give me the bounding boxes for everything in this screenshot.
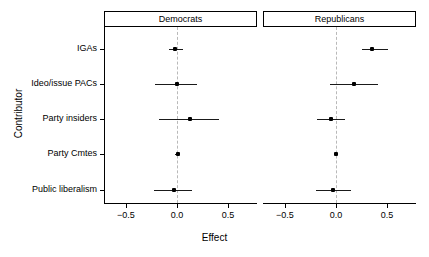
data-point <box>331 188 335 192</box>
x-axis-tick <box>336 204 337 208</box>
y-axis-tick <box>100 190 104 191</box>
data-point <box>334 152 338 156</box>
y-axis-tick <box>100 49 104 50</box>
y-axis-tick <box>100 84 104 85</box>
data-point <box>188 117 192 121</box>
x-axis-tick <box>177 204 178 208</box>
x-axis-tick-label: 0.5 <box>367 210 407 220</box>
y-axis-tick <box>100 119 104 120</box>
y-axis-title: Contributor <box>13 74 24 154</box>
data-point <box>176 152 180 156</box>
y-axis-tick-label: Party Cmtes <box>47 148 97 158</box>
x-axis-tick-label: 0.0 <box>316 210 356 220</box>
x-axis-tick-label: −0.5 <box>106 210 146 220</box>
chart-figure: Contributor Effect Democrats Republicans… <box>0 0 429 257</box>
y-axis-tick <box>100 154 104 155</box>
x-axis-tick-label: 0.5 <box>208 210 248 220</box>
x-axis-tick <box>228 204 229 208</box>
panel-strip-democrats: Democrats <box>104 11 257 27</box>
x-axis-title: Effect <box>0 232 429 243</box>
data-point <box>352 82 356 86</box>
y-axis-line <box>104 27 105 203</box>
data-point <box>329 117 333 121</box>
zero-reference-line <box>177 27 179 203</box>
x-axis-tick <box>387 204 388 208</box>
y-axis-tick-label: Public liberalism <box>32 184 97 194</box>
zero-reference-line <box>336 27 338 203</box>
x-axis-tick-label: −0.5 <box>265 210 305 220</box>
data-point <box>175 82 179 86</box>
data-point <box>172 188 176 192</box>
error-bar <box>362 49 388 50</box>
data-point <box>370 47 374 51</box>
y-axis-tick-label: Ideo/issue PACs <box>31 78 97 88</box>
x-axis-tick <box>285 204 286 208</box>
x-axis-tick <box>126 204 127 208</box>
y-axis-tick-label: Party insiders <box>42 113 97 123</box>
y-axis-tick-label: IGAs <box>77 43 97 53</box>
x-axis-tick-label: 0.0 <box>157 210 197 220</box>
panel-strip-republicans: Republicans <box>263 11 416 27</box>
data-point <box>173 47 177 51</box>
